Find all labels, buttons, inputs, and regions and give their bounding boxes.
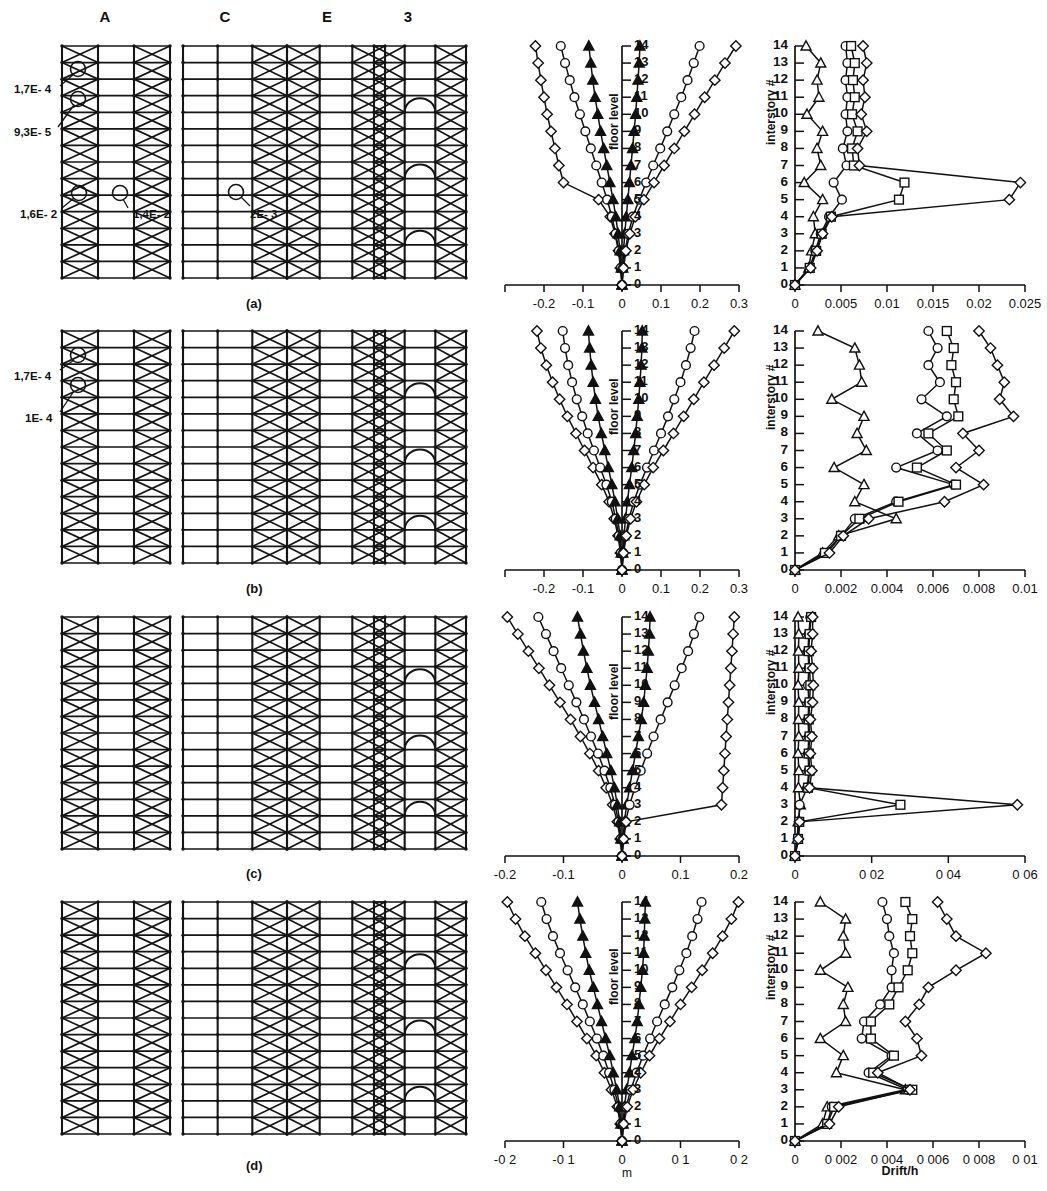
frame-C-row-b bbox=[183, 331, 287, 563]
plot-displacement-d bbox=[505, 902, 739, 1147]
xtick-drift-b-1: 0.002 bbox=[825, 581, 858, 596]
ytick-drift-c-4: 4 bbox=[780, 779, 788, 794]
ytick-drift-c-14: 14 bbox=[773, 608, 788, 623]
ytick-displacement-c-4: 4 bbox=[634, 779, 641, 794]
xtick-drift-d-1: 0 002 bbox=[825, 1152, 858, 1167]
frame-A-row-c bbox=[62, 617, 170, 849]
ytick-displacement-a-8: 8 bbox=[634, 139, 641, 154]
ytick-drift-a-13: 13 bbox=[773, 54, 788, 69]
xtick-drift-c-1: 0 02 bbox=[859, 867, 884, 882]
ytick-drift-c-9: 9 bbox=[780, 693, 788, 708]
frame-C-row-c bbox=[183, 617, 287, 849]
ytick-displacement-b-4: 4 bbox=[634, 493, 641, 508]
ylabel-displacement-b: floor level bbox=[607, 378, 621, 435]
ylabel-displacement-d: floor level bbox=[607, 948, 621, 1005]
ytick-displacement-c-14: 14 bbox=[634, 608, 648, 623]
frame-E-row-d bbox=[287, 902, 385, 1134]
xtick-displacement-a-2: -0.1 bbox=[572, 296, 594, 311]
ytick-drift-c-3: 3 bbox=[780, 796, 788, 811]
ytick-drift-d-9: 9 bbox=[780, 978, 788, 993]
xtick-displacement-a-6: 0.3 bbox=[730, 296, 748, 311]
xtick-displacement-a-4: 0.1 bbox=[652, 296, 670, 311]
frame-A-row-d bbox=[62, 902, 170, 1134]
ytick-displacement-a-5: 5 bbox=[634, 191, 641, 206]
ytick-drift-d-7: 7 bbox=[780, 1013, 788, 1028]
ytick-displacement-d-6: 6 bbox=[634, 1030, 641, 1045]
xtick-displacement-d-3: 0 1 bbox=[671, 1152, 689, 1167]
frame-3-row-d bbox=[374, 902, 466, 1134]
xtick-displacement-b-3: 0 bbox=[618, 581, 625, 596]
ylabel-displacement-a: floor level bbox=[607, 93, 621, 150]
xtick-displacement-d-2: 0 bbox=[618, 1152, 625, 1167]
ytick-displacement-c-9: 9 bbox=[634, 693, 641, 708]
ytick-drift-a-4: 4 bbox=[780, 208, 788, 223]
ytick-drift-a-0: 0 bbox=[780, 276, 788, 291]
ytick-drift-b-8: 8 bbox=[780, 424, 788, 439]
ylabel-drift-d: interstory # bbox=[764, 935, 778, 1000]
xtick-displacement-c-3: 0.1 bbox=[671, 867, 689, 882]
ytick-displacement-a-2: 2 bbox=[634, 242, 641, 257]
plot-drift-c bbox=[795, 617, 1025, 862]
xtick-drift-a-3: 0.015 bbox=[917, 296, 950, 311]
ytick-drift-b-7: 7 bbox=[780, 442, 788, 457]
xtick-drift-b-5: 0.01 bbox=[1012, 581, 1037, 596]
ytick-displacement-a-13: 13 bbox=[634, 54, 648, 69]
xtick-drift-b-3: 0.006 bbox=[917, 581, 950, 596]
ytick-drift-c-0: 0 bbox=[780, 847, 788, 862]
xtick-displacement-a-5: 0.2 bbox=[691, 296, 709, 311]
frame-3-row-c bbox=[374, 617, 466, 849]
xtick-displacement-b-4: 0.1 bbox=[652, 581, 670, 596]
frame-A-row-b bbox=[62, 331, 170, 563]
xtick-drift-a-1: 0.005 bbox=[825, 296, 858, 311]
ytick-displacement-b-7: 7 bbox=[634, 442, 641, 457]
ytick-drift-d-13: 13 bbox=[773, 910, 788, 925]
xtick-displacement-b-6: 0.3 bbox=[730, 581, 748, 596]
xtick-displacement-c-0: -0.2 bbox=[494, 867, 516, 882]
ytick-drift-b-3: 3 bbox=[780, 510, 788, 525]
ytick-drift-b-2: 2 bbox=[780, 527, 788, 542]
xtick-drift-c-2: 0 04 bbox=[936, 867, 961, 882]
xtick-displacement-a-3: 0 bbox=[618, 296, 625, 311]
frame-A-row-a bbox=[62, 46, 170, 278]
ytick-displacement-b-14: 14 bbox=[634, 322, 648, 337]
xtick-displacement-b-5: 0.2 bbox=[691, 581, 709, 596]
ytick-displacement-d-8: 8 bbox=[634, 995, 641, 1010]
xtick-displacement-c-2: 0 bbox=[618, 867, 625, 882]
xtick-drift-d-0: 0 bbox=[791, 1152, 798, 1167]
ytick-displacement-c-11: 11 bbox=[634, 659, 648, 674]
xlabel-displacement-d: m bbox=[607, 1166, 647, 1180]
xtick-drift-a-4: 0.02 bbox=[966, 296, 991, 311]
plot-drift-b bbox=[795, 331, 1025, 576]
ytick-drift-c-6: 6 bbox=[780, 745, 788, 760]
xtick-drift-d-5: 0 01 bbox=[1012, 1152, 1037, 1167]
ytick-displacement-a-1: 1 bbox=[634, 259, 641, 274]
plot-displacement-a bbox=[505, 46, 739, 291]
xtick-displacement-a-1: -0.2 bbox=[533, 296, 555, 311]
ytick-displacement-a-11: 11 bbox=[634, 88, 648, 103]
ytick-displacement-c-2: 2 bbox=[634, 813, 641, 828]
ytick-drift-b-0: 0 bbox=[780, 561, 788, 576]
ylabel-displacement-c: floor level bbox=[607, 663, 621, 720]
ytick-displacement-c-7: 7 bbox=[634, 728, 641, 743]
ytick-displacement-d-5: 5 bbox=[634, 1047, 641, 1062]
ytick-displacement-a-10: 10 bbox=[634, 105, 648, 120]
ytick-displacement-a-6: 6 bbox=[634, 174, 641, 189]
xtick-displacement-b-1: -0.2 bbox=[533, 581, 555, 596]
ytick-drift-d-1: 1 bbox=[780, 1115, 788, 1130]
ytick-drift-b-14: 14 bbox=[773, 322, 788, 337]
plot-displacement-c bbox=[505, 617, 739, 862]
ytick-drift-d-6: 6 bbox=[780, 1030, 788, 1045]
ytick-displacement-a-4: 4 bbox=[634, 208, 641, 223]
ytick-displacement-a-7: 7 bbox=[634, 157, 641, 172]
ytick-drift-a-14: 14 bbox=[773, 37, 788, 52]
ytick-drift-c-5: 5 bbox=[780, 762, 788, 777]
ytick-displacement-b-2: 2 bbox=[634, 527, 641, 542]
ytick-displacement-c-13: 13 bbox=[634, 625, 648, 640]
ytick-displacement-d-13: 13 bbox=[634, 910, 648, 925]
ytick-displacement-c-1: 1 bbox=[634, 830, 641, 845]
ytick-drift-b-4: 4 bbox=[780, 493, 788, 508]
ytick-displacement-a-3: 3 bbox=[634, 225, 641, 240]
ytick-drift-b-1: 1 bbox=[780, 544, 788, 559]
ytick-displacement-b-6: 6 bbox=[634, 459, 641, 474]
ytick-drift-a-2: 2 bbox=[780, 242, 788, 257]
